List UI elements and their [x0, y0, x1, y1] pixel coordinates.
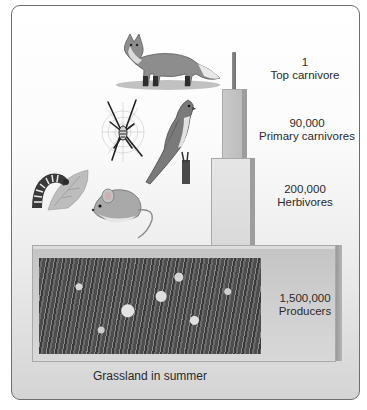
- name-primary-carnivores: Primary carnivores: [252, 130, 362, 143]
- name-producers: Producers: [270, 305, 340, 318]
- level-label-herbivores: 200,000 Herbivores: [260, 183, 350, 209]
- count-producers: 1,500,000: [270, 292, 340, 305]
- kestrel-illustration: [144, 96, 196, 186]
- fox-illustration: [112, 30, 224, 92]
- mouse-illustration: [88, 180, 160, 242]
- level-label-producers: 1,500,000 Producers: [270, 292, 340, 318]
- name-herbivores: Herbivores: [260, 196, 350, 209]
- count-primary-carnivores: 90,000: [252, 117, 362, 130]
- caterpillar-illustration: [28, 166, 90, 214]
- level-label-top-carnivore: 1 Top carnivore: [260, 56, 350, 82]
- spider-illustration: [100, 98, 146, 166]
- count-herbivores: 200,000: [260, 183, 350, 196]
- herbivores-bar: [211, 158, 251, 248]
- primary-carnivores-bar: [222, 89, 243, 160]
- name-top-carnivore: Top carnivore: [260, 69, 350, 82]
- count-top-carnivore: 1: [260, 56, 350, 69]
- level-label-primary-carnivores: 90,000 Primary carnivores: [252, 117, 362, 143]
- grassland-photo: [39, 258, 261, 354]
- top-carnivore-bar: [232, 52, 236, 92]
- caption: Grassland in summer: [80, 370, 220, 383]
